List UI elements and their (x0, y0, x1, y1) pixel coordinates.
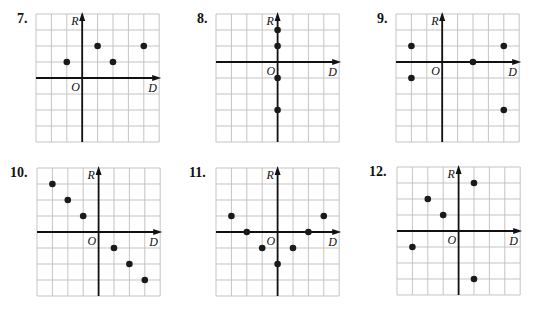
data-point (408, 43, 415, 50)
data-point (471, 276, 478, 283)
y-axis-arrow-icon (439, 12, 445, 21)
y-axis-label: R (447, 167, 456, 181)
y-axis-arrow-icon (79, 12, 85, 21)
origin-label: O (267, 64, 276, 78)
x-axis-label: D (508, 234, 518, 248)
x-axis-label: D (507, 65, 517, 79)
data-point (320, 213, 327, 220)
data-point (140, 43, 147, 50)
data-point (63, 59, 70, 66)
coordinate-graph: RDO (37, 168, 160, 296)
data-point (111, 245, 118, 252)
data-point (126, 261, 133, 268)
data-point (500, 43, 507, 50)
data-point (424, 196, 431, 203)
data-point (274, 75, 281, 82)
problem-number: 8. (197, 11, 208, 27)
y-axis-arrow-icon (456, 165, 462, 174)
data-point (440, 212, 447, 219)
data-point (49, 181, 56, 188)
problem-number: 12. (369, 164, 387, 180)
origin-label: O (431, 64, 440, 78)
y-axis-label: R (266, 14, 275, 28)
problem-number: 9. (377, 11, 388, 27)
origin-label: O (71, 80, 80, 94)
x-axis-label: D (327, 235, 337, 249)
data-point (408, 75, 415, 82)
data-point (470, 59, 477, 66)
x-axis-label: D (327, 65, 337, 79)
coordinate-graph: RDO (36, 14, 159, 142)
data-point (243, 229, 250, 236)
origin-label: O (267, 234, 276, 248)
data-point (274, 43, 281, 50)
x-axis-label: D (147, 81, 157, 95)
data-point (409, 244, 416, 251)
problem-number: 7. (17, 11, 28, 27)
y-axis-label: R (87, 168, 96, 182)
origin-label: O (88, 234, 97, 248)
coordinate-graph: RDO (396, 14, 519, 142)
data-point (110, 59, 117, 66)
data-point (259, 245, 266, 252)
y-axis-arrow-icon (275, 12, 281, 21)
origin-label: O (448, 233, 457, 247)
data-point (228, 213, 235, 220)
y-axis-label: R (266, 168, 275, 182)
problem-number: 10. (10, 165, 28, 181)
data-point (471, 180, 478, 187)
y-axis-label: R (70, 14, 79, 28)
y-axis-arrow-icon (96, 166, 102, 175)
problem-number: 11. (189, 165, 206, 181)
coordinate-graph: RDO (216, 14, 339, 142)
data-point (274, 107, 281, 114)
data-point (94, 43, 101, 50)
coordinate-graph: RDO (216, 168, 339, 296)
data-point (305, 229, 312, 236)
data-point (500, 107, 507, 114)
y-axis-label: R (430, 14, 439, 28)
coordinate-graph: RDO (397, 167, 520, 295)
data-point (290, 245, 297, 252)
x-axis-label: D (148, 235, 158, 249)
data-point (274, 27, 281, 34)
data-point (141, 277, 148, 284)
data-point (64, 197, 71, 204)
data-point (80, 213, 87, 220)
data-point (274, 261, 281, 268)
y-axis-arrow-icon (275, 166, 281, 175)
